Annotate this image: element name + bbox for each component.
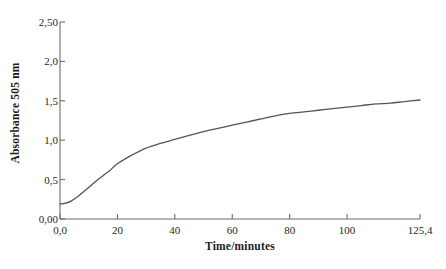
series-line-absorbance xyxy=(60,100,420,204)
data-series xyxy=(60,100,420,204)
chart-figure: Absorbance 505 nm Time/minutes 0,000,51,… xyxy=(0,0,446,269)
plot-area xyxy=(0,0,446,269)
axes xyxy=(60,22,420,219)
